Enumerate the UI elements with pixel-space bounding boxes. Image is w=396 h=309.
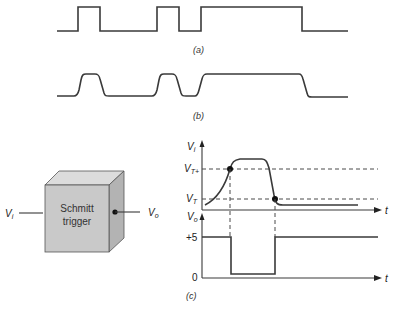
output-plot: t Vo +5 0 [186, 211, 389, 284]
vo-label: Vo [187, 211, 198, 223]
caption-c: (c) [186, 291, 197, 301]
output-signal [202, 237, 378, 274]
input-signal-curve [205, 159, 358, 205]
t-axis-top-arrow-icon [374, 207, 382, 213]
vi-label: Vi [187, 141, 196, 153]
input-plot: t Vi VT+ VT [184, 140, 389, 237]
block-label-line2: trigger [63, 216, 92, 227]
waveform-b [57, 74, 348, 97]
t-label-bottom: t [385, 273, 389, 284]
zero-label: 0 [192, 272, 198, 283]
schmitt-trigger-block: Schmitt trigger [45, 171, 124, 252]
caption-b: (b) [193, 111, 204, 121]
schmitt-trigger-figure: (a) (b) Schmitt trigger Vi Vo t Vi VT+ V… [0, 0, 396, 309]
vi-axis-arrow-icon [200, 140, 205, 147]
t-label-top: t [385, 205, 389, 216]
waveform-a [57, 7, 348, 31]
t-axis-bottom-arrow-icon [374, 275, 382, 281]
vt-minus-label: VT [186, 193, 198, 205]
vo-axis-arrow-icon [200, 213, 205, 220]
output-label: Vo [148, 207, 159, 219]
block-label-line1: Schmitt [60, 203, 94, 214]
caption-a: (a) [193, 45, 204, 55]
vt-plus-label: VT+ [184, 163, 199, 175]
plus5-label: +5 [186, 232, 198, 243]
input-label: Vi [5, 208, 14, 220]
